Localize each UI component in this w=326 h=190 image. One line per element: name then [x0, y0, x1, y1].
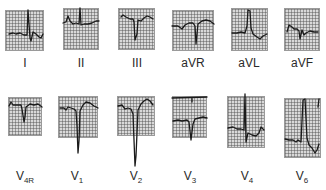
ecg-panel-V4 [227, 96, 265, 148]
lead-label-II: II [56, 56, 106, 72]
lead-label-V3: V3 [165, 169, 215, 185]
ecg-trace-V3 [172, 96, 207, 138]
ecg-trace-V2 [117, 96, 155, 136]
lead-label-V1: V1 [52, 169, 102, 185]
ecg-trace-aVR [172, 10, 214, 51]
lead-label-V4R: V4R [0, 169, 50, 185]
ecg-panel-II [63, 8, 99, 50]
lead-label-aVR: aVR [168, 56, 218, 72]
ecg-panel-V4R [8, 97, 42, 136]
lead-label-III: III [112, 56, 162, 72]
ecg-trace-V1 [58, 96, 98, 138]
ecg-panel-I [5, 10, 44, 51]
ecg-trace-aVF [284, 8, 320, 51]
ecg-panel-aVF [284, 8, 320, 51]
ecg-panel-III [118, 8, 155, 50]
ecg-panel-aVL [231, 8, 268, 51]
lead-label-V4: V4 [222, 169, 272, 185]
ecg-trace-V4 [227, 96, 265, 148]
lead-label-I: I [0, 56, 50, 72]
ecg-trace-V4R [8, 97, 42, 136]
ecg-trace-V6 [284, 98, 321, 158]
lead-label-V2: V2 [111, 169, 161, 185]
ecg-panel-V1 [58, 96, 98, 138]
ecg-trace-aVL [231, 8, 268, 51]
lead-label-aVF: aVF [277, 56, 326, 72]
ecg-trace-III [118, 8, 155, 50]
ecg-trace-II [63, 8, 99, 50]
lead-label-aVL: aVL [224, 56, 274, 72]
ecg-trace-I [5, 10, 44, 51]
ecg-panel-V2 [117, 96, 155, 136]
ecg-panel-V6 [284, 98, 321, 158]
lead-label-V6: V6 [277, 169, 326, 185]
ecg-panel-aVR [172, 10, 214, 51]
ecg-panel-V3 [172, 96, 207, 138]
